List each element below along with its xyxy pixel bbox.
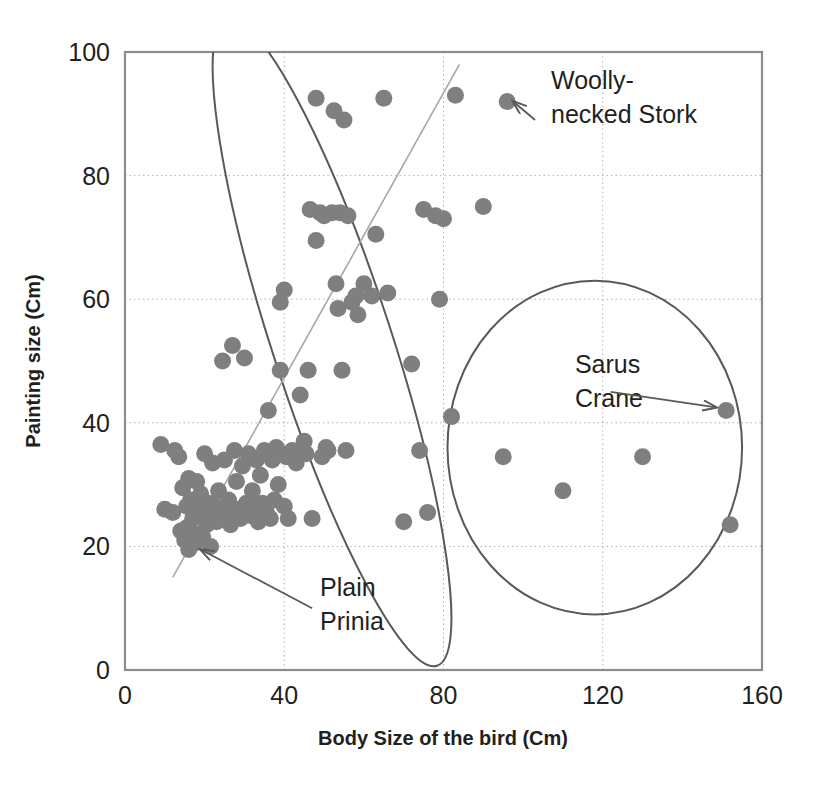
data-point — [395, 513, 412, 530]
data-point — [308, 232, 325, 249]
data-point — [333, 362, 350, 379]
data-point — [272, 362, 289, 379]
data-point — [367, 226, 384, 243]
data-point — [447, 87, 464, 104]
data-point — [280, 510, 297, 527]
data-point — [214, 353, 231, 370]
data-point — [495, 448, 512, 465]
x-tick-label: 120 — [582, 681, 624, 709]
annotation-line: Crane — [575, 384, 643, 412]
data-point — [435, 210, 452, 227]
data-point — [363, 288, 380, 305]
y-tick-label: 40 — [82, 409, 110, 437]
data-point — [252, 467, 269, 484]
data-point — [475, 198, 492, 215]
data-point — [328, 275, 345, 292]
data-point — [337, 442, 354, 459]
chart-canvas: Woolly-necked StorkSarusCranePlainPrinia… — [0, 0, 820, 786]
data-point — [276, 281, 293, 298]
data-point — [292, 386, 309, 403]
data-point — [320, 442, 337, 459]
data-point — [224, 337, 241, 354]
data-point — [228, 473, 245, 490]
data-point — [308, 90, 325, 107]
data-point — [349, 306, 366, 323]
data-point — [270, 476, 287, 493]
annotation-line: necked Stork — [551, 100, 697, 128]
y-tick-label: 100 — [68, 38, 110, 66]
data-point — [375, 90, 392, 107]
data-point — [554, 482, 571, 499]
data-point — [722, 516, 739, 533]
annotation-line: Sarus — [575, 350, 640, 378]
data-point — [443, 408, 460, 425]
x-tick-label: 80 — [430, 681, 458, 709]
x-tick-label: 40 — [270, 681, 298, 709]
scatter-chart: Woolly-necked StorkSarusCranePlainPrinia… — [0, 0, 820, 786]
x-tick-label: 160 — [741, 681, 783, 709]
data-point — [262, 510, 279, 527]
data-point — [403, 356, 420, 373]
y-tick-label: 20 — [82, 532, 110, 560]
data-point — [300, 362, 317, 379]
data-point — [298, 445, 315, 462]
annotation-line: Woolly- — [551, 66, 634, 94]
data-point — [419, 504, 436, 521]
annotation-line: Prinia — [320, 607, 384, 635]
y-tick-label: 60 — [82, 285, 110, 313]
y-tick-label: 80 — [82, 162, 110, 190]
data-point — [304, 510, 321, 527]
data-point — [379, 285, 396, 302]
data-point — [718, 402, 735, 419]
data-point — [411, 442, 428, 459]
data-point — [431, 291, 448, 308]
x-axis-title: Body Size of the bird (Cm) — [318, 727, 568, 749]
y-axis-title: Painting size (Cm) — [22, 274, 44, 447]
data-point — [170, 448, 187, 465]
annotation-line: Plain — [320, 573, 376, 601]
data-point — [634, 448, 651, 465]
data-point — [236, 349, 253, 366]
y-tick-label: 0 — [96, 656, 110, 684]
data-point — [260, 402, 277, 419]
x-tick-label: 0 — [118, 681, 132, 709]
data-point — [499, 93, 516, 110]
data-point — [339, 207, 356, 224]
data-point — [335, 111, 352, 128]
